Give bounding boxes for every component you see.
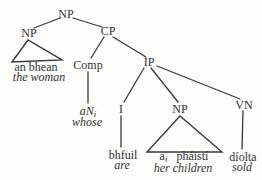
edge-ip-vn <box>157 66 240 99</box>
edge-cp-ip <box>113 37 146 57</box>
node-comp: Comp <box>73 59 102 71</box>
terminal-vn-gloss: sold <box>232 161 252 173</box>
syntax-tree-diagram: NP NP CP Comp IP I NP VN an bhean the wo… <box>0 0 262 180</box>
node-cp: CP <box>101 25 116 37</box>
edge-vn-terminal <box>242 111 243 149</box>
node-np-left: NP <box>21 27 36 39</box>
edge-nproot-npleft <box>34 18 60 28</box>
triangle-np-low <box>147 116 222 152</box>
node-np-low: NP <box>172 103 187 115</box>
terminal-subject-gloss: the woman <box>13 71 65 83</box>
edge-cp-comp <box>91 37 104 58</box>
terminal-object-gloss: her children <box>154 162 213 174</box>
node-vn: VN <box>235 99 252 111</box>
terminal-comp-gloss: whose <box>72 116 102 128</box>
node-ip: IP <box>144 56 155 68</box>
edge-ip-i <box>124 68 144 102</box>
edge-nproot-cp <box>73 18 102 27</box>
triangle-np-left <box>12 40 62 62</box>
node-i: I <box>119 103 123 115</box>
node-np-root: NP <box>58 8 73 20</box>
terminal-verb-gloss: are <box>114 159 130 171</box>
